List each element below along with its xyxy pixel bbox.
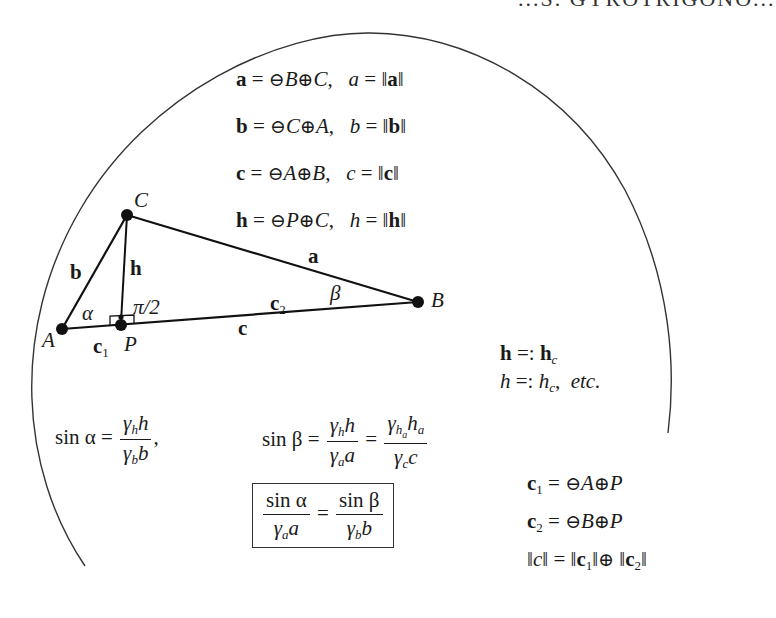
notation-vector-hc: h =: hc — [500, 343, 557, 366]
label-beta: β — [330, 283, 340, 304]
definition-a: a = ⊖B⊕C, a = ‖a‖ — [236, 69, 404, 90]
equation-sin-beta: sin β = γhhγaa = γhahaγcc — [262, 413, 429, 470]
label-altitude-h: h — [130, 258, 142, 279]
label-side-b: b — [70, 262, 82, 283]
notation-scalar-hc: h =: hc, etc. — [500, 371, 600, 394]
label-c2: c2 — [270, 293, 286, 316]
label-B: B — [431, 290, 444, 311]
label-side-c: c — [238, 318, 247, 339]
definition-c2: c2 = ⊖B⊕P — [527, 511, 623, 534]
label-alpha: α — [82, 303, 93, 324]
definition-b: b = ⊖C⊕A, b = ‖b‖ — [236, 116, 406, 137]
label-A: A — [42, 330, 55, 351]
label-c1: c1 — [93, 336, 109, 359]
definition-h: h = ⊖P⊕C, h = ‖h‖ — [236, 210, 406, 231]
altitude-h — [121, 215, 127, 322]
label-right-angle: π/2 — [133, 297, 160, 318]
definition-c1: c1 = ⊖A⊕P — [527, 473, 623, 496]
boxed-law-of-sines: sin αγaa = sin βγbb — [252, 483, 394, 548]
vertex-C — [121, 209, 133, 221]
label-P: P — [124, 334, 137, 355]
vertex-B — [412, 296, 424, 308]
label-side-a: a — [308, 246, 319, 267]
equation-sin-alpha: sin α = γhhγbb, — [55, 413, 159, 466]
vertex-P — [115, 319, 127, 331]
definition-c: c = ⊖A⊕B, c = ‖c‖ — [236, 163, 399, 184]
vertex-A — [56, 323, 68, 335]
norm-sum-equation: ‖c‖ = ‖c1‖⊕ ‖c2‖ — [527, 549, 647, 572]
label-C: C — [134, 190, 148, 211]
